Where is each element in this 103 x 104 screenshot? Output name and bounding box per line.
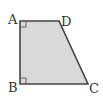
vertex-label-a: A (7, 12, 18, 27)
diagram-svg: A D B C (0, 0, 103, 104)
trapezoid-diagram: A D B C (0, 0, 103, 104)
trapezoid-abcd (20, 21, 88, 84)
vertex-label-d: D (61, 14, 71, 29)
vertex-label-c: C (89, 81, 99, 96)
vertex-label-b: B (8, 80, 18, 95)
